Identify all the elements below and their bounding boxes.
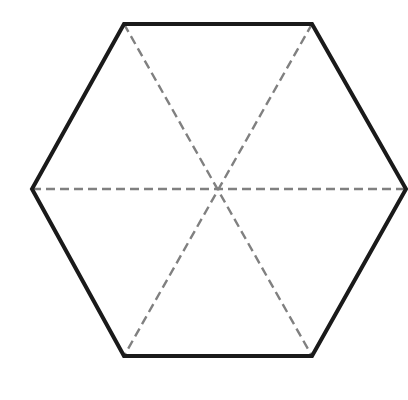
diagonals-group	[32, 24, 406, 356]
hexagon-diagram	[0, 0, 408, 400]
